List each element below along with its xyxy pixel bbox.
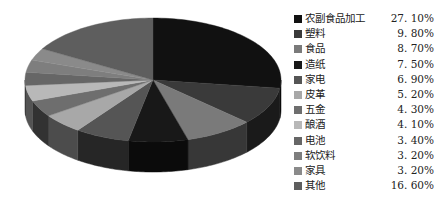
legend-label: 食品 [305, 41, 325, 56]
legend-swatch [294, 137, 302, 145]
legend-value: 3. 20% [397, 163, 434, 178]
legend-label: 皮革 [305, 87, 325, 102]
legend-label: 五金 [305, 102, 325, 117]
legend-value: 9. 80% [397, 26, 434, 41]
legend-swatch [294, 182, 302, 190]
legend-label: 其他 [305, 178, 325, 193]
legend-value: 6. 90% [397, 72, 434, 87]
legend-label: 家电 [305, 72, 325, 87]
legend-value: 7. 50% [397, 57, 434, 72]
legend-label: 家具 [305, 163, 325, 178]
legend-value: 16. 60% [391, 178, 434, 193]
legend-swatch [294, 61, 302, 69]
legend-swatch [294, 121, 302, 129]
legend-swatch [294, 45, 302, 53]
legend-item: 电池3. 40% [292, 133, 436, 148]
legend-item: 塑料9. 80% [292, 26, 436, 41]
legend-swatch [294, 15, 302, 23]
legend-swatch [294, 106, 302, 114]
legend-item: 五金4. 30% [292, 102, 436, 117]
legend-label: 塑料 [305, 26, 325, 41]
legend-item: 食品8. 70% [292, 41, 436, 56]
legend-item: 家具3. 20% [292, 163, 436, 178]
pie-chart [0, 0, 300, 199]
legend-value: 4. 30% [397, 102, 434, 117]
legend-swatch [294, 167, 302, 175]
legend-swatch [294, 152, 302, 160]
legend-label: 酿酒 [305, 117, 325, 132]
legend-value: 3. 20% [397, 148, 434, 163]
legend-label: 软饮料 [305, 148, 335, 163]
legend-label: 电池 [305, 133, 325, 148]
legend-value: 8. 70% [397, 41, 434, 56]
legend-item: 软饮料3. 20% [292, 148, 436, 163]
legend-value: 4. 10% [397, 117, 434, 132]
legend-label: 造纸 [305, 57, 325, 72]
legend-swatch [294, 91, 302, 99]
legend-value: 5. 20% [397, 87, 434, 102]
legend-item: 造纸7. 50% [292, 57, 436, 72]
legend-swatch [294, 76, 302, 84]
legend-value: 3. 40% [397, 133, 434, 148]
legend-item: 农副食品加工27. 10% [292, 11, 436, 26]
legend-item: 皮革5. 20% [292, 87, 436, 102]
legend-value: 27. 10% [391, 11, 434, 26]
legend-item: 家电6. 90% [292, 72, 436, 87]
pie-slice [153, 18, 281, 88]
legend-swatch [294, 30, 302, 38]
legend-item: 酿酒4. 10% [292, 117, 436, 132]
legend-item: 其他16. 60% [292, 178, 436, 193]
pie-side [128, 140, 188, 172]
legend-label: 农副食品加工 [305, 11, 365, 26]
legend: 农副食品加工27. 10%塑料9. 80%食品8. 70%造纸7. 50%家电6… [292, 11, 436, 193]
